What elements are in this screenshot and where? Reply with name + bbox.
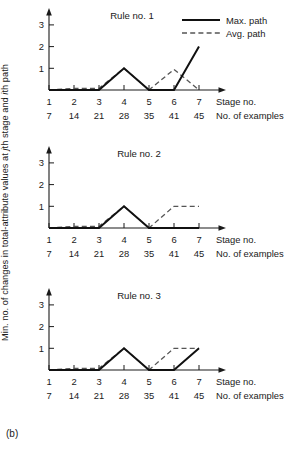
x2-tick-label-2: 14 [69, 110, 79, 121]
x-tick-label-2: 2 [71, 234, 76, 245]
y-tick-label-1: 1 [39, 343, 44, 354]
x2-tick-label-2: 14 [69, 390, 79, 401]
chart-title: Rule no. 3 [117, 290, 161, 301]
x2-tick-label-4: 28 [119, 110, 129, 121]
y-axis-label-part-j: j [0, 148, 10, 150]
x-tick-label-6: 6 [171, 376, 176, 387]
y-axis-label-part-2: th stage and [0, 95, 10, 149]
x-tick-label-7: 7 [196, 96, 201, 107]
chart-svg-rule-1: Rule no. 1 Max. path Avg. path 1 2 3 [24, 2, 298, 130]
chart-title: Rule no. 1 [110, 10, 154, 21]
x-tick-label-3: 3 [96, 96, 101, 107]
chart-panel-rule-3: Rule no. 3 1 2 3 1 2 3 4 5 6 [24, 282, 298, 410]
chart-3-content: Rule no. 3 1 2 3 1 2 3 4 5 6 [39, 288, 284, 401]
x-tick-label-3: 3 [96, 376, 101, 387]
x-axis-arrow [219, 225, 227, 231]
figure-label: (b) [6, 428, 18, 439]
chart-panel-rule-1: Rule no. 1 Max. path Avg. path 1 2 3 [24, 2, 298, 130]
x-tick-label-7: 7 [196, 376, 201, 387]
x2-tick-label-1: 7 [46, 390, 51, 401]
x-axis-caption-examples: No. of examples [216, 248, 284, 259]
x2-tick-label-7: 45 [194, 390, 204, 401]
legend-label-max: Max. path [226, 15, 267, 26]
y-axis-label: Min. no. of changes in total-attribute v… [0, 0, 11, 405]
x2-tick-label-3: 21 [94, 248, 104, 259]
x-tick-label-4: 4 [121, 96, 126, 107]
y-tick-label-2: 2 [39, 41, 44, 52]
x-tick-label-2: 2 [71, 376, 76, 387]
x2-tick-label-7: 45 [194, 110, 204, 121]
x-tick-label-1: 1 [46, 234, 51, 245]
legend-label-avg: Avg. path [226, 28, 265, 39]
x-axis-arrow [219, 87, 227, 93]
x-tick-label-6: 6 [171, 96, 176, 107]
x2-tick-label-6: 41 [169, 390, 179, 401]
x-tick-label-7: 7 [196, 234, 201, 245]
x-tick-label-5: 5 [146, 376, 151, 387]
chart-1-content: Rule no. 1 Max. path Avg. path 1 2 3 [39, 8, 284, 121]
y-tick-label-2: 2 [39, 321, 44, 332]
y-tick-label-1: 1 [39, 63, 44, 74]
x2-tick-label-7: 45 [194, 248, 204, 259]
x2-tick-label-5: 35 [144, 390, 154, 401]
y-axis-label-part-i: i [0, 93, 10, 95]
x-tick-label-4: 4 [121, 234, 126, 245]
chart-title: Rule no. 2 [117, 148, 161, 159]
y-tick-label-2: 2 [39, 179, 44, 190]
y-axis-arrow [46, 288, 52, 296]
y-axis-label-container: Min. no. of changes in total-attribute v… [0, 0, 26, 410]
x2-tick-label-1: 7 [46, 110, 51, 121]
x2-tick-label-4: 28 [119, 248, 129, 259]
y-axis-arrow [46, 146, 52, 154]
x2-tick-label-3: 21 [94, 110, 104, 121]
x2-tick-label-6: 41 [169, 110, 179, 121]
x-axis-caption-examples: No. of examples [216, 110, 284, 121]
x-tick-label-5: 5 [146, 96, 151, 107]
x-tick-label-3: 3 [96, 234, 101, 245]
x-axis-caption-stage: Stage no. [216, 96, 256, 107]
x-tick-label-1: 1 [46, 376, 51, 387]
x-tick-label-6: 6 [171, 234, 176, 245]
y-axis-label-part-3: th path [0, 64, 10, 92]
x2-tick-label-2: 14 [69, 248, 79, 259]
y-tick-label-3: 3 [39, 157, 44, 168]
series-max-path [49, 47, 199, 90]
x-axis-caption-stage: Stage no. [216, 234, 256, 245]
chart-svg-rule-3: Rule no. 3 1 2 3 1 2 3 4 5 6 [24, 282, 298, 410]
x2-tick-label-5: 35 [144, 248, 154, 259]
x-axis-caption-stage: Stage no. [216, 376, 256, 387]
y-tick-label-3: 3 [39, 19, 44, 30]
x2-tick-label-5: 35 [144, 110, 154, 121]
x-tick-label-5: 5 [146, 234, 151, 245]
x2-tick-label-4: 28 [119, 390, 129, 401]
x-tick-label-2: 2 [71, 96, 76, 107]
y-axis-arrow [46, 8, 52, 16]
y-tick-label-3: 3 [39, 299, 44, 310]
x-axis-arrow [219, 367, 227, 373]
chart-2-content: Rule no. 2 1 2 3 1 2 3 4 5 6 [39, 146, 284, 259]
y-tick-label-1: 1 [39, 201, 44, 212]
y-axis-label-part-1: Min. no. of changes in total-attribute v… [0, 151, 10, 341]
x2-tick-label-3: 21 [94, 390, 104, 401]
x2-tick-label-1: 7 [46, 248, 51, 259]
chart-svg-rule-2: Rule no. 2 1 2 3 1 2 3 4 5 6 [24, 140, 298, 268]
x-axis-caption-examples: No. of examples [216, 390, 284, 401]
x2-tick-label-6: 41 [169, 248, 179, 259]
x-tick-label-4: 4 [121, 376, 126, 387]
chart-panel-rule-2: Rule no. 2 1 2 3 1 2 3 4 5 6 [24, 140, 298, 268]
x-tick-label-1: 1 [46, 96, 51, 107]
